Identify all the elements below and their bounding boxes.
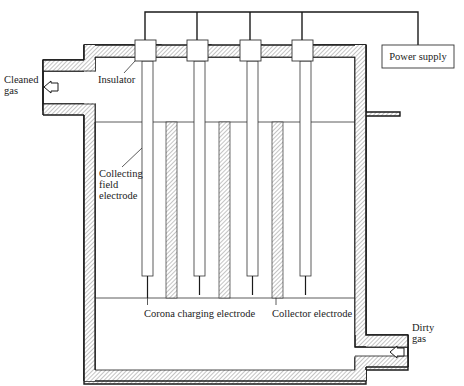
collector-plates <box>166 122 283 298</box>
dirty-gas-label-1: Dirty <box>412 322 435 333</box>
collecting-label-1: Collecting <box>99 168 143 179</box>
cleaned-gas-arrow-icon <box>44 81 58 93</box>
cleaned-gas-label-1: Cleaned <box>4 74 39 85</box>
power-supply-label: Power supply <box>389 51 447 62</box>
dirty-gas-label-2: gas <box>412 333 426 344</box>
cleaned-gas-label-2: gas <box>4 85 18 96</box>
power-supply-box: Power supply <box>382 45 454 68</box>
collector-electrode-label: Collector electrode <box>272 308 353 319</box>
precipitator-diagram: Power supply Cleaned gas Insulator Colle… <box>0 0 464 386</box>
collecting-label-2: field <box>99 179 119 190</box>
insulator-label: Insulator <box>98 74 136 85</box>
corona-electrode-label: Corona charging electrode <box>144 308 256 319</box>
power-wiring <box>145 12 418 45</box>
collecting-label-3: electrode <box>99 190 138 201</box>
